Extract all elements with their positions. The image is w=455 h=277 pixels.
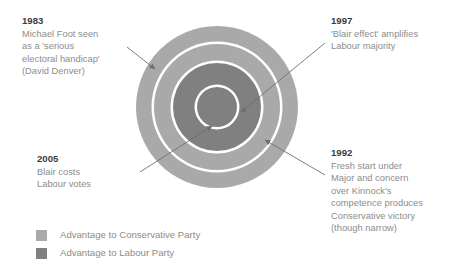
legend-label-conservative: Advantage to Conservative Party [60, 229, 200, 241]
legend: Advantage to Conservative Party Advantag… [36, 226, 296, 262]
arrow-1997 [241, 43, 325, 112]
annotation-1997: 1997 'Blair effect' amplifies Labour maj… [331, 14, 453, 53]
annotation-1992-year: 1992 [331, 146, 455, 159]
annotation-2005-text: Blair costs Labour votes [37, 166, 147, 191]
annotation-1983-text: Michael Foot seen as a 'serious electora… [22, 28, 142, 78]
legend-swatch-conservative [36, 230, 47, 241]
diagram-root: 1983 Michael Foot seen as a 'serious ele… [0, 0, 455, 277]
arrow-1992 [265, 140, 325, 175]
annotation-1992: 1992 Fresh start under Major and concern… [331, 146, 455, 235]
legend-item-labour: Advantage to Labour Party [36, 244, 296, 262]
annotation-1997-year: 1997 [331, 14, 453, 27]
legend-label-labour: Advantage to Labour Party [60, 247, 174, 259]
annotation-1992-text: Fresh start under Major and concern over… [331, 160, 455, 236]
annotation-1983-year: 1983 [22, 14, 142, 27]
annotation-1983: 1983 Michael Foot seen as a 'serious ele… [22, 14, 142, 78]
annotation-2005: 2005 Blair costs Labour votes [37, 152, 147, 191]
legend-item-conservative: Advantage to Conservative Party [36, 226, 296, 244]
arrow-2005 [140, 126, 212, 172]
legend-swatch-labour [36, 248, 47, 259]
annotation-2005-year: 2005 [37, 152, 147, 165]
annotation-1997-text: 'Blair effect' amplifies Labour majority [331, 28, 453, 53]
